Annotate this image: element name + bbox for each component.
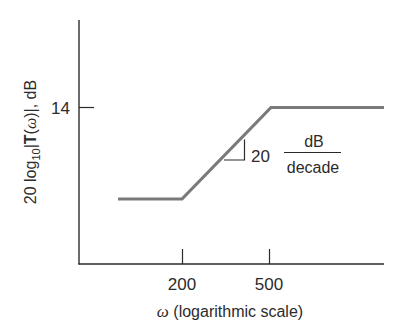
slope-triangle — [224, 140, 245, 161]
slope-value: 20 — [251, 147, 270, 166]
x-axis-label: ω (logarithmic scale) — [157, 302, 303, 321]
y-axis-label: 20 log10|T(ω)|, dB — [22, 80, 42, 204]
x-tick-label: 500 — [255, 275, 283, 294]
y-tick-label: 14 — [51, 99, 70, 118]
slope-denominator: decade — [287, 159, 340, 176]
slope-numerator: dB — [304, 133, 324, 150]
bode-plot: 14 200 500 ω (logarithmic scale) 20 log1… — [0, 0, 401, 332]
x-tick-label: 200 — [168, 275, 196, 294]
